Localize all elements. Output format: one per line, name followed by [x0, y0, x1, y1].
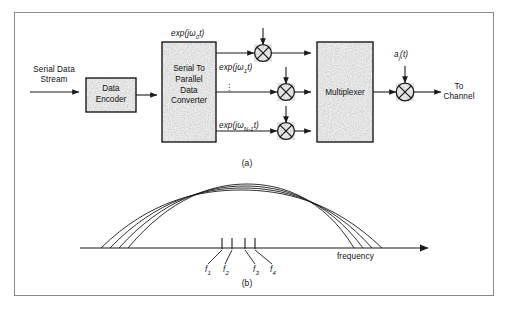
subcarrier-lobes: [101, 184, 382, 248]
tick-label-f2: f2: [216, 265, 236, 277]
output-label: To Channel: [432, 82, 486, 101]
carrier-label-n: exp(jωN-1t): [219, 121, 259, 133]
caption-b: (b): [227, 278, 267, 288]
frequency-ticks: [222, 238, 255, 249]
input-label: Serial Data Stream: [18, 65, 90, 84]
figure-root: Serial Data Stream Data Encoder Serial T…: [0, 0, 510, 310]
tick-leader-lines: [208, 250, 272, 264]
mixer-carrier-n: [278, 106, 311, 139]
lobe-3: [119, 186, 363, 248]
lobe-4: [128, 184, 354, 248]
vertical-ellipsis: ⋮: [224, 86, 234, 89]
mixer-carrier-1: [278, 67, 311, 100]
carrier-label-1: exp(jω1t): [219, 63, 252, 75]
axis-label-frequency: frequency: [337, 252, 374, 262]
tick-label-f4: f4: [263, 265, 283, 277]
block-multiplexer: [317, 42, 373, 142]
block-data-encoder: [86, 78, 136, 112]
diagram-canvas: [0, 0, 510, 310]
carrier-label-0: exp(jω0t): [171, 29, 204, 41]
lobe-2: [110, 188, 372, 248]
amplitude-label: aj(t): [394, 50, 408, 62]
caption-a: (a): [227, 158, 267, 168]
block-serial-to-parallel: [162, 42, 216, 142]
tick-label-f1: f1: [198, 265, 218, 277]
mixer-carrier-0: [255, 28, 311, 61]
